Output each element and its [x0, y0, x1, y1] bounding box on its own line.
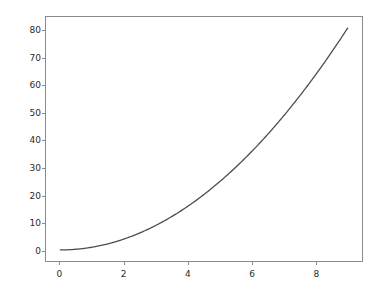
- y-tick-mark: [42, 85, 45, 86]
- x-tick-mark: [59, 262, 60, 265]
- y-tick-mark: [42, 168, 45, 169]
- x-tick-mark: [124, 262, 125, 265]
- x-tick-mark: [316, 262, 317, 265]
- x-tick-mark: [252, 262, 253, 265]
- y-tick-mark: [42, 223, 45, 224]
- x-tick-mark: [188, 262, 189, 265]
- y-tick-mark: [42, 113, 45, 114]
- y-tick-mark: [42, 196, 45, 197]
- y-tick-mark: [42, 58, 45, 59]
- chart-figure: 01020304050607080 02468: [0, 0, 381, 294]
- y-tick-mark: [42, 140, 45, 141]
- axis-tick-marks: [0, 0, 381, 294]
- y-tick-mark: [42, 251, 45, 252]
- y-tick-mark: [42, 30, 45, 31]
